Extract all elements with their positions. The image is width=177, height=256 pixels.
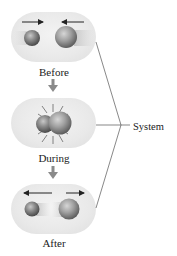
small-ball-icon — [24, 30, 40, 46]
small-ball-icon — [25, 202, 40, 217]
during-label: During — [9, 152, 99, 164]
large-ball-icon — [59, 199, 80, 220]
before-label: Before — [9, 66, 99, 78]
down-arrow-icon — [48, 79, 58, 92]
down-arrow-icon — [48, 166, 58, 179]
large-ball-icon — [55, 26, 77, 48]
system-bracket — [96, 42, 130, 208]
system-label: System — [133, 121, 164, 132]
motion-blur — [74, 30, 94, 46]
collision-diagram: Before During After System — [0, 0, 177, 256]
after-label: After — [9, 237, 99, 249]
large-ball-icon — [49, 112, 72, 135]
